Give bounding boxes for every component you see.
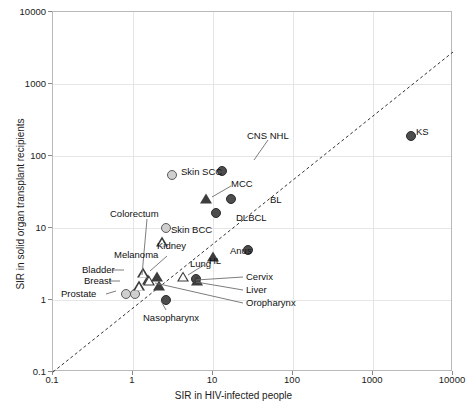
data-point-liver[interactable] [191, 275, 203, 285]
point-label-liver: Liver [246, 284, 267, 295]
y-tick-label: 0.1 [0, 366, 46, 377]
point-label-mcc: MCC [231, 178, 253, 189]
x-tick-label: 0.1 [45, 374, 58, 385]
y-tick-label: 10000 [0, 6, 46, 17]
data-point-nasopharynx[interactable] [161, 295, 171, 305]
data-point-bladder[interactable] [137, 268, 149, 278]
data-point-lung[interactable] [177, 271, 189, 281]
y-tick-mark [48, 227, 52, 228]
y-tick-mark [48, 371, 52, 372]
point-label-lung: Lung [190, 258, 211, 269]
point-label-nasopharynx: Nasopharynx [143, 312, 199, 323]
x-tick-label: 10000 [439, 374, 465, 385]
data-point-bl[interactable] [226, 194, 236, 204]
data-point[interactable] [130, 289, 140, 299]
data-point-skin-scc[interactable] [167, 170, 177, 180]
x-tick-label: 1 [129, 374, 134, 385]
y-tick-label: 1000 [0, 78, 46, 89]
y-tick-mark [48, 11, 52, 12]
point-label-cervix: Cervix [246, 271, 273, 282]
y-tick-mark [48, 155, 52, 156]
point-label-oropharynx: Oropharynx [246, 297, 296, 308]
x-tick-mark [372, 371, 373, 375]
y-axis-title: SIR in solid organ transplant recipients [15, 94, 26, 314]
point-label-melanoma: Melanoma [114, 249, 158, 260]
point-label-dlbcl: DLBCL [236, 212, 267, 223]
data-point-skin-bcc[interactable] [161, 223, 171, 233]
x-tick-label: 10 [207, 374, 218, 385]
point-label-skin-scc: Skin SCC [181, 166, 222, 177]
x-axis-title: SIR in HIV-infected people [0, 390, 467, 401]
y-tick-mark [48, 83, 52, 84]
point-label-colorectum: Colorectum [110, 208, 159, 219]
point-label-kidney: Kidney [157, 240, 186, 251]
plot-area [52, 11, 452, 371]
data-point-oropharynx[interactable] [153, 281, 165, 291]
data-point-dlbcl[interactable] [211, 208, 221, 218]
point-label-bladder: Bladder [82, 264, 115, 275]
data-point-breast[interactable] [133, 281, 145, 291]
point-label-cns-nhl: CNS NHL [247, 130, 289, 141]
identity-reference-line [53, 12, 451, 370]
x-tick-mark [132, 371, 133, 375]
point-label-ks: KS [416, 126, 429, 137]
point-label-breast: Breast [84, 275, 111, 286]
point-label-prostate: Prostate [61, 288, 96, 299]
x-tick-mark [292, 371, 293, 375]
x-tick-mark [212, 371, 213, 375]
point-label-anus: Anus [230, 245, 252, 256]
data-point-ks[interactable] [406, 131, 416, 141]
x-tick-label: 1000 [361, 374, 382, 385]
x-tick-label: 100 [284, 374, 300, 385]
data-point-prostate[interactable] [121, 289, 131, 299]
x-tick-mark [52, 371, 53, 375]
point-label-bl: BL [270, 194, 282, 205]
x-tick-mark [452, 371, 453, 375]
data-point-mcc[interactable] [200, 194, 212, 204]
y-tick-mark [48, 299, 52, 300]
point-label-skin-bcc: Skin BCC [171, 224, 212, 235]
scatter-chart: 0.1110100100010000 0.1110100100010000 KS… [0, 0, 467, 408]
